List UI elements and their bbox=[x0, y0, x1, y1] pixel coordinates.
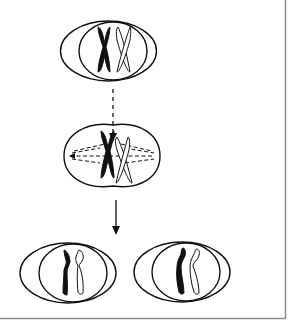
black-chromatid-icon bbox=[63, 250, 70, 295]
nuclear-envelope bbox=[152, 243, 220, 301]
white-chromosome-icon bbox=[116, 137, 133, 183]
white-chromosome-icon bbox=[116, 27, 130, 72]
white-chromatid-icon bbox=[190, 249, 199, 294]
parent-cell bbox=[61, 21, 157, 81]
daughter-cell-right bbox=[134, 242, 230, 302]
black-chromosome-icon bbox=[101, 131, 114, 178]
daughter-cell-left bbox=[20, 243, 116, 303]
nuclear-envelope bbox=[79, 22, 147, 80]
dividing-cell bbox=[64, 124, 160, 186]
cell-division-diagram bbox=[0, 0, 289, 322]
white-chromatid-icon bbox=[76, 250, 84, 294]
arrow-down-icon bbox=[112, 200, 120, 235]
black-chromosome-icon bbox=[98, 27, 110, 72]
cell-membrane-outer bbox=[20, 243, 116, 303]
black-chromatid-icon bbox=[177, 248, 186, 294]
spindle-pole-left bbox=[69, 153, 75, 159]
nuclear-envelope bbox=[39, 244, 107, 302]
diagram-frame bbox=[0, 0, 289, 322]
